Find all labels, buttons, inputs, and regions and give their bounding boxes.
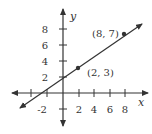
y-tick-label: 8 (42, 24, 48, 35)
point-8-7 (122, 32, 126, 36)
point-label: (8, 7) (92, 28, 119, 39)
y-tick-label: 2 (42, 72, 48, 83)
y-axis-label: y (69, 10, 77, 23)
x-tick-label: 6 (107, 104, 113, 115)
coordinate-plane: -2 2 4 6 8 2 4 6 8 x y (2, 3) (8, 7) (0, 0, 152, 134)
point-label: (2, 3) (87, 67, 114, 78)
line-backward (20, 68, 78, 108)
x-axis-label: x (138, 96, 145, 109)
x-tick-label: 4 (91, 104, 97, 115)
x-tick-label: 2 (76, 104, 82, 115)
y-tick-label: 6 (42, 40, 48, 51)
x-tick-label: -2 (37, 104, 47, 115)
x-tick-label: 8 (122, 104, 128, 115)
point-2-3 (76, 66, 80, 70)
y-tick-label: 4 (42, 56, 48, 67)
